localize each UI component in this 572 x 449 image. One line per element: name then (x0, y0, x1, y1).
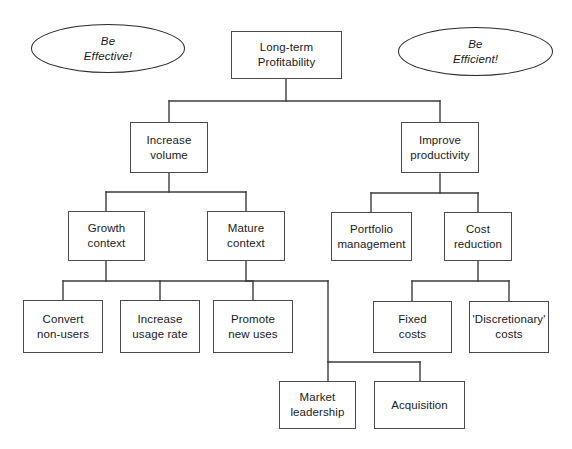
node-label: Mature context (227, 221, 265, 250)
node-label: Promote new uses (228, 312, 277, 341)
callout-oval-be-effective: Be Effective! (31, 24, 185, 73)
node-label: Convert non-users (37, 312, 89, 341)
node-label: Increase usage rate (132, 312, 187, 341)
node-label: Long-term Profitability (258, 40, 316, 69)
node-label: Portfolio management (337, 222, 405, 251)
callout-oval-label: Be Efficient! (453, 37, 498, 67)
node-long-term-profitability: Long-term Profitability (231, 31, 342, 79)
node-promote-new-uses: Promote new uses (213, 300, 293, 353)
callout-oval-label: Be Effective! (84, 34, 132, 64)
node-increase-volume: Increase volume (130, 122, 208, 173)
node-growth-context: Growth context (68, 211, 145, 261)
node-market-leadership: Market leadership (279, 381, 356, 429)
diagram-canvas: Be Effective!Be Efficient! Long-term Pro… (0, 0, 572, 449)
node-label: Cost reduction (454, 222, 502, 251)
node-label: 'Discretionary' costs (473, 312, 546, 341)
node-label: Growth context (88, 221, 126, 250)
node-convert-non-users: Convert non-users (23, 300, 103, 353)
node-label: Increase volume (147, 133, 192, 162)
callout-oval-be-efficient: Be Efficient! (398, 27, 553, 76)
node-label: Improve productivity (410, 133, 469, 162)
node-increase-usage-rate: Increase usage rate (120, 300, 200, 353)
node-label: Market leadership (290, 390, 344, 419)
node-label: Fixed costs (398, 312, 427, 341)
node-label: Acquisition (391, 398, 448, 413)
node-fixed-costs: Fixed costs (373, 301, 452, 353)
node-cost-reduction: Cost reduction (444, 212, 512, 261)
node-acquisition: Acquisition (374, 381, 465, 429)
node-portfolio-management: Portfolio management (331, 212, 412, 261)
node-improve-productivity: Improve productivity (401, 122, 479, 173)
node-mature-context: Mature context (207, 211, 285, 261)
node-discretionary-costs: 'Discretionary' costs (469, 301, 549, 353)
